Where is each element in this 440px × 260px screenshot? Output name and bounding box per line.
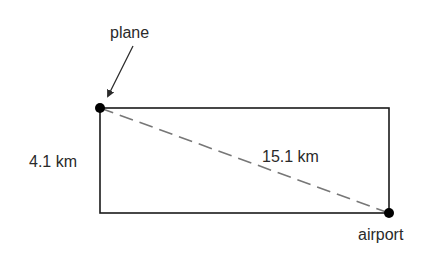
diagonal-distance-line <box>100 108 389 213</box>
plane-pointer-arrow <box>108 46 133 96</box>
height-label: 4.1 km <box>29 153 77 170</box>
plane-point <box>95 103 105 113</box>
airport-point <box>384 208 394 218</box>
diagonal-label: 15.1 km <box>262 148 319 165</box>
plane-label: plane <box>110 24 149 41</box>
plane-airport-diagram: plane airport 4.1 km 15.1 km <box>0 0 440 260</box>
airport-label: airport <box>358 226 404 243</box>
